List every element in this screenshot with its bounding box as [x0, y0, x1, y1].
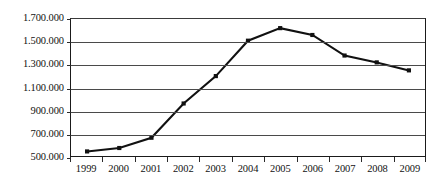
y-axis-tick-label: 500.000	[0, 152, 64, 163]
x-axis-tick-mark	[102, 157, 103, 162]
gridline	[71, 89, 425, 90]
gridline	[71, 135, 425, 136]
x-axis-tick-label: 2005	[270, 163, 291, 175]
x-axis-tick-label: 2001	[141, 163, 162, 175]
y-axis-tick-mark	[67, 135, 71, 136]
y-axis-tick-label: 1.300.000	[0, 59, 64, 70]
y-axis-tick-label: 1.500.000	[0, 36, 64, 47]
x-axis-tick-label: 2006	[302, 163, 323, 175]
x-axis-tick-mark	[361, 157, 362, 162]
x-axis-tick-mark	[232, 157, 233, 162]
gridline	[71, 42, 425, 43]
x-axis-tick-label: 2004	[238, 163, 259, 175]
data-point-marker	[310, 33, 314, 37]
y-axis-tick-mark	[67, 65, 71, 66]
x-axis-tick-mark	[167, 157, 168, 162]
x-axis-tick-label: 1999	[76, 163, 97, 175]
gridline	[71, 112, 425, 113]
data-point-marker	[85, 149, 89, 153]
x-axis-tick-mark	[199, 157, 200, 162]
x-axis-tick-label: 2007	[335, 163, 356, 175]
x-axis-tick-label: 2002	[173, 163, 194, 175]
x-axis: 1999200020012002200320042005200620072008…	[70, 163, 426, 179]
x-axis-tick-mark	[329, 157, 330, 162]
y-axis-tick-label: 1.100.000	[0, 83, 64, 94]
data-point-marker	[182, 101, 186, 105]
y-axis-tick-mark	[67, 19, 71, 20]
y-axis-tick-mark	[67, 112, 71, 113]
y-axis-tick-label: 900.000	[0, 106, 64, 117]
gridline	[71, 65, 425, 66]
x-axis-tick-label: 2009	[400, 163, 421, 175]
plot-area	[70, 18, 426, 157]
y-axis-tick-mark	[67, 42, 71, 43]
data-point-marker	[407, 68, 411, 72]
data-point-marker	[214, 74, 218, 78]
x-axis-tick-mark	[394, 157, 395, 162]
data-point-marker	[342, 53, 346, 57]
data-point-marker	[117, 146, 121, 150]
x-axis-tick-mark	[425, 157, 426, 162]
x-axis-tick-label: 2000	[108, 163, 129, 175]
x-axis-tick-label: 2003	[205, 163, 226, 175]
line-chart: 500.000700.000900.0001.100.0001.300.0001…	[0, 0, 444, 184]
data-point-marker	[375, 60, 379, 64]
y-axis-tick-label: 700.000	[0, 129, 64, 140]
data-point-marker	[278, 26, 282, 30]
x-axis-tick-mark	[264, 157, 265, 162]
series-line	[87, 28, 409, 151]
y-axis-tick-label: 1.700.000	[0, 13, 64, 24]
x-axis-tick-label: 2008	[367, 163, 388, 175]
x-axis-tick-mark	[135, 157, 136, 162]
x-axis-tick-mark	[70, 157, 71, 162]
x-axis-tick-mark	[297, 157, 298, 162]
data-point-marker	[149, 136, 153, 140]
y-axis-tick-mark	[67, 89, 71, 90]
